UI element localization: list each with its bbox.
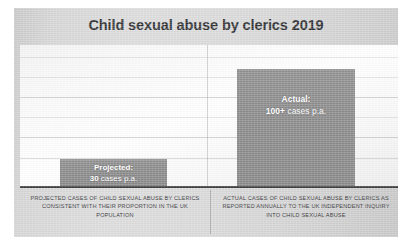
slide-canvas: Child sexual abuse by clerics 2019 Proje…: [0, 0, 414, 246]
bar-projected[interactable]: Projected: 30 cases p.a.: [60, 159, 167, 187]
bar-projected-headline: Projected:: [60, 162, 167, 173]
bar-actual-unit: cases p.a.: [287, 106, 326, 116]
page-margin-right: [398, 0, 414, 246]
gridline: [20, 57, 398, 58]
page-margin-left: [0, 0, 14, 246]
category-divider: [207, 45, 208, 187]
bar-actual-label: Actual: 100+ cases p.a.: [237, 93, 355, 117]
bar-actual-value: 100+: [266, 106, 285, 116]
x-axis-line: [20, 186, 398, 188]
caption-row: PROJECTED CASES OF CHILD SEXUAL ABUSE BY…: [20, 190, 398, 234]
bar-actual-headline: Actual:: [237, 93, 355, 105]
title-band: Child sexual abuse by clerics 2019: [14, 8, 398, 46]
bar-actual[interactable]: Actual: 100+ cases p.a.: [237, 69, 355, 187]
plot-area: Projected: 30 cases p.a. Actual: 100+ ca…: [20, 45, 398, 187]
page-margin-bottom: [0, 237, 414, 246]
bar-projected-value: 30: [90, 174, 99, 183]
bar-projected-unit: cases p.a.: [101, 174, 137, 183]
chart-card: Child sexual abuse by clerics 2019 Proje…: [14, 8, 398, 237]
chart-title: Child sexual abuse by clerics 2019: [14, 17, 398, 33]
caption-projected: PROJECTED CASES OF CHILD SEXUAL ABUSE BY…: [20, 190, 211, 234]
page-margin-top: [0, 0, 414, 8]
bar-projected-label: Projected: 30 cases p.a.: [60, 162, 167, 184]
caption-actual: ACTUAL CASES OF CHILD SEXUAL ABUSE BY CL…: [211, 190, 398, 234]
